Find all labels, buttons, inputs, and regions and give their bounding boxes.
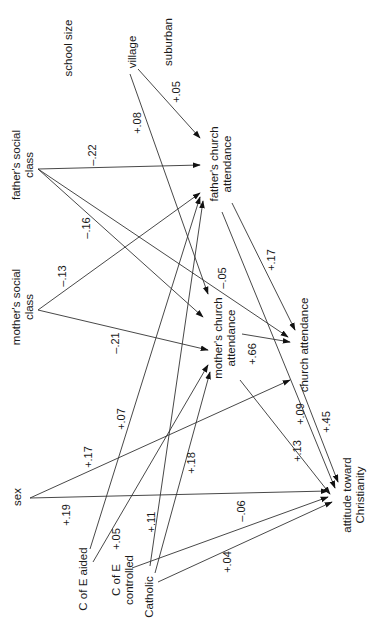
coef-mclass-mchurch: –.21 [109, 332, 121, 353]
coef-sex-attitude: +.19 [60, 504, 72, 526]
node-catholic: Catholic [143, 576, 155, 618]
coef-fchurch-church: +.17 [265, 249, 277, 271]
edges [30, 69, 338, 582]
diagram-svg: school size suburban village father's so… [0, 0, 377, 627]
path-diagram: school size suburban village father's so… [0, 0, 377, 627]
coef-aided-mchurch: +.05 [110, 528, 122, 550]
coef-fchurch-attitude: +.45 [320, 411, 332, 433]
edge-fclass-fchurch [38, 165, 200, 169]
edge-sex-church [30, 380, 290, 498]
node-village: village [126, 36, 138, 69]
node-mothers-church-attendance-line1: mother's church [212, 297, 224, 378]
node-labels: school size suburban village father's so… [10, 18, 366, 618]
edge-aided-fchurch [90, 197, 200, 549]
edge-village-fathers-church [138, 69, 200, 138]
coef-mchurch-church: +.66 [246, 343, 258, 365]
node-mothers-social-class-line2: class [23, 294, 35, 320]
coef-sex-church: +.17 [82, 446, 94, 468]
node-fathers-church-attendance-line1: father's church [208, 126, 220, 201]
edge-sex-attitude [30, 491, 328, 498]
coef-fclass-fchurch: –.22 [86, 144, 98, 165]
node-sex: sex [11, 488, 23, 506]
node-c-of-e-controlled-line1: C of E [110, 564, 122, 596]
coef-mclass-fchurch: –.13 [56, 265, 68, 286]
node-church-attendance: church attendance [298, 298, 310, 393]
edge-mchurch-church [242, 334, 290, 342]
node-mothers-church-attendance-line2: attendance [225, 310, 237, 367]
edge-village-mothers-church [130, 74, 208, 294]
edge-church-attitude [300, 384, 338, 482]
coef-mchurch-attitude: +.13 [291, 440, 303, 462]
edge-mchurch-attitude [240, 380, 330, 494]
coef-catholic-attitude: +.04 [221, 551, 233, 573]
coef-church-attitude: +.09 [294, 403, 306, 425]
coef-fclass-mchurch: –.16 [80, 217, 92, 238]
coef-catholic-mchurch: +.18 [185, 452, 197, 474]
node-fathers-social-class-line1: father's social [10, 130, 22, 200]
coef-village-fchurch: +.05 [170, 81, 182, 103]
node-c-of-e-aided: C of E aided [77, 547, 89, 610]
edge-fchurch-church [232, 203, 295, 330]
coef-controlled-attitude: –.06 [235, 500, 247, 521]
coefficient-labels: +.05 +.08 –.22 –.16 –.05 –.13 –.21 +.17 … [56, 81, 332, 573]
coef-controlled-fchurch: +.11 [145, 512, 157, 533]
node-suburban: suburban [162, 18, 174, 66]
edge-controlled-fchurch [150, 201, 203, 566]
node-school-size: school size [62, 20, 74, 77]
edge-fclass-church [38, 169, 288, 337]
node-fathers-social-class-line2: class [23, 152, 35, 178]
node-fathers-church-attendance-line2: attendance [221, 136, 233, 193]
node-attitude-line1: attitude toward [341, 457, 353, 532]
edge-fclass-mchurch [38, 169, 203, 317]
edge-fchurch-attitude [222, 212, 335, 488]
node-c-of-e-controlled-line2: controlled [123, 555, 135, 605]
coef-village-mchurch: +.08 [131, 112, 143, 134]
node-attitude-line2: Christianity [354, 466, 366, 523]
coef-fclass-church: –.05 [216, 267, 228, 288]
node-mothers-social-class-line1: mother's social [10, 269, 22, 345]
coef-aided-fchurch: +.07 [115, 408, 127, 430]
